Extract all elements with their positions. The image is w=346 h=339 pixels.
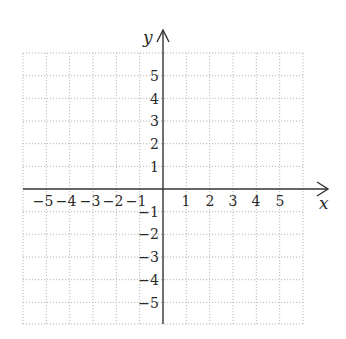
x-axis-label: x (319, 193, 329, 213)
x-tick-label: 5 (276, 193, 285, 209)
y-tick-label: −3 (138, 249, 159, 265)
x-tick-label: 1 (182, 193, 191, 209)
y-tick-label: 1 (150, 159, 159, 175)
y-axis-label: y (142, 27, 153, 47)
x-tick-label: −5 (33, 193, 54, 209)
x-tick-label: 3 (229, 193, 238, 209)
coordinate-plane: x y −5 −4 −3 −2 −1 1 2 3 4 5 5 4 3 2 1 −… (0, 0, 346, 339)
y-tick-label: −4 (138, 272, 159, 288)
y-tick-label: 5 (150, 68, 159, 84)
y-tick-label: −1 (138, 204, 159, 220)
x-tick-label: 2 (206, 193, 215, 209)
x-tick-label: −3 (80, 193, 101, 209)
y-tick-label: 4 (150, 91, 159, 107)
y-tick-label: 2 (150, 136, 159, 152)
y-tick-label: −5 (138, 295, 159, 311)
x-tick-label: −2 (103, 193, 124, 209)
y-tick-label: 3 (150, 113, 159, 129)
x-tick-label: 4 (252, 193, 261, 209)
y-tick-label: −2 (138, 226, 159, 242)
x-tick-label: −4 (56, 193, 77, 209)
